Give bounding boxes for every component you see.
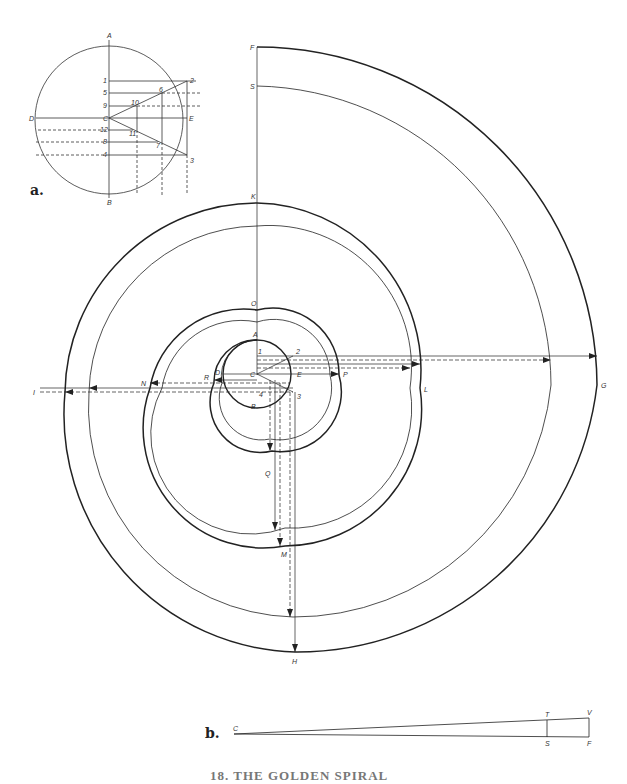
inner-spiral [88, 86, 551, 617]
figure-b-labels: C T V S F b. [205, 709, 593, 747]
main-label-2: 2 [295, 348, 300, 355]
main-label-O: O [251, 300, 257, 307]
main-label-B: B [251, 403, 256, 410]
main-label-A: A [252, 331, 258, 338]
main-label-3: 3 [297, 393, 301, 400]
figure-caption: 18. THE GOLDEN SPIRAL [210, 768, 388, 784]
main-label-N: N [141, 380, 147, 387]
figure-a-tag: a. [30, 182, 44, 198]
fig-a-label-7: 7 [156, 142, 161, 149]
fig-a-label-1: 1 [103, 77, 107, 84]
outer-spiral [64, 47, 597, 652]
main-label-K: K [251, 193, 256, 200]
main-label-E: E [297, 371, 302, 378]
fig-b-label-V: V [587, 709, 593, 716]
fig-a-label-E: E [189, 115, 194, 122]
figure-a [35, 40, 202, 198]
main-labels: F S K O A B C D E 1 2 3 4 G L P H M Q I … [33, 44, 607, 665]
fig-a-label-11: 11 [129, 130, 136, 137]
main-label-F: F [250, 44, 255, 51]
fig-a-label-3: 3 [190, 157, 194, 164]
fig-b-label-C: C [233, 725, 239, 732]
main-label-Q: Q [265, 470, 271, 478]
fig-a-label-4: 4 [103, 151, 107, 158]
figure-b-top-line [234, 718, 589, 734]
fig-a-label-A: A [106, 32, 112, 39]
fig-a-label-D: D [29, 115, 34, 122]
main-label-C: C [250, 371, 256, 378]
fig-a-label-8: 8 [103, 138, 107, 145]
fig-a-label-5: 5 [103, 89, 107, 96]
fig-b-label-F: F [587, 740, 592, 747]
fig-b-label-T: T [545, 711, 550, 718]
fig-a-label-B: B [107, 199, 112, 206]
figure-b [234, 718, 589, 737]
fig-b-label-S: S [545, 740, 550, 747]
fig-a-label-C: C [103, 115, 109, 122]
main-label-P: P [343, 371, 348, 378]
figure-b-base-line [234, 734, 589, 737]
fig-a-label-6: 6 [159, 86, 163, 93]
main-label-4: 4 [259, 391, 263, 398]
main-label-1: 1 [258, 348, 262, 355]
main-label-D: D [215, 369, 220, 376]
main-label-G: G [601, 382, 607, 389]
main-label-R: R [204, 374, 209, 381]
fig-a-label-2: 2 [189, 77, 194, 84]
main-label-S: S [250, 83, 255, 90]
figure-b-tag: b. [205, 725, 220, 741]
main-label-L: L [424, 386, 428, 393]
main-label-M: M [281, 551, 287, 558]
fig-a-label-9: 9 [103, 102, 107, 109]
main-label-I: I [33, 389, 35, 396]
fig-a-label-12: 12 [100, 126, 108, 133]
main-label-H: H [292, 658, 298, 665]
fig-a-label-10: 10 [131, 99, 139, 106]
figure-main [40, 47, 597, 652]
